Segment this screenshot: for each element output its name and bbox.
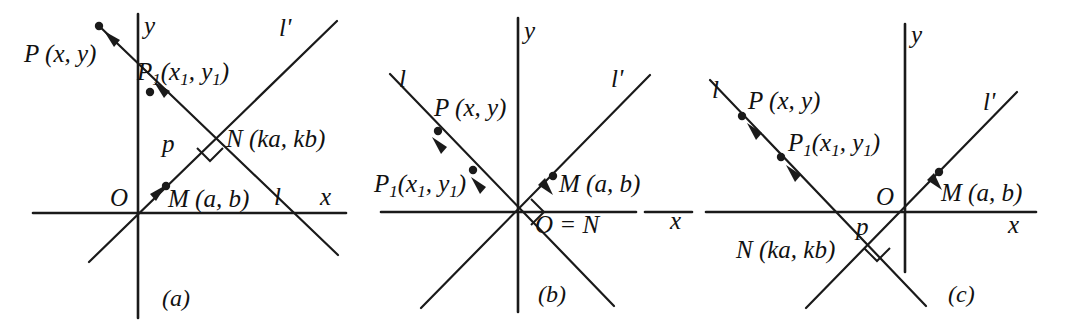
- panel-c-point-M: [935, 168, 943, 176]
- panel-a-point-P1: [146, 88, 154, 96]
- panel-a-point-P: [95, 22, 103, 30]
- panel-b-point-P: [434, 127, 442, 135]
- panel-b-label-x-axis: x: [670, 208, 681, 233]
- panel-a-label-P1-mid: , y: [189, 58, 213, 85]
- panel-b-label-P1-subscript: 1: [389, 182, 398, 201]
- panel-b-label-line-l-prime: l': [611, 66, 623, 91]
- panel-a-label-P1-open: (x: [161, 58, 180, 85]
- figure-canvas: P (x, y) P1(x1, y1) N (ka, kb) p M (a, b…: [0, 0, 1072, 332]
- panel-a-label-p-foot: p: [162, 131, 175, 156]
- panel-c-geometry: [706, 24, 1036, 308]
- panel-a-label-y-axis: y: [144, 13, 155, 38]
- panel-b-label-y-axis: y: [524, 18, 535, 43]
- panel-c-point-P1: [777, 153, 785, 161]
- panel-c-point-P: [738, 112, 746, 120]
- panel-a-label-line-l: l: [274, 184, 281, 209]
- panel-b-label-P: P (x, y): [434, 95, 506, 120]
- panel-c-label-P1-mid: , y: [840, 129, 864, 156]
- panel-a-label-P1-subscript: 1: [152, 70, 161, 89]
- panel-b-label-M: M (a, b): [559, 171, 640, 196]
- panel-c-label-line-l: l: [712, 77, 719, 102]
- panel-a-label-x-axis: x: [320, 184, 331, 209]
- panel-b-point-P1: [469, 166, 477, 174]
- panel-c-label-P1-x-subscript: 1: [831, 141, 840, 160]
- panel-c-label-P1-open: (x: [812, 129, 831, 156]
- panel-c-label-origin: O: [876, 184, 894, 209]
- panel-c-label-P1-y-subscript: 1: [863, 141, 872, 160]
- panel-b-arrow-head-lprime: [538, 178, 553, 195]
- panel-a-caption: (a): [162, 286, 190, 310]
- panel-c-label-P: P (x, y): [748, 88, 820, 113]
- panel-a-label-P1-letter: P: [137, 58, 152, 85]
- panel-c-label-P1-letter: P: [788, 129, 803, 156]
- panel-a-label-line-l-prime: l': [279, 15, 291, 40]
- panel-a-label-M: M (a, b): [168, 186, 249, 211]
- panel-a-label-P1: P1(x1, y1): [137, 59, 229, 88]
- diagram-svg: [0, 0, 1072, 332]
- panel-a-label-P1-close: ): [221, 58, 229, 85]
- panel-c-label-x-axis: x: [1008, 212, 1019, 237]
- panel-b-label-P1-open: (x: [398, 170, 417, 197]
- panel-c-label-M: M (a, b): [941, 180, 1022, 205]
- panel-a-label-P1-y-subscript: 1: [212, 70, 221, 89]
- panel-a-label-P1-x-subscript: 1: [180, 70, 189, 89]
- panel-a-label-P: P (x, y): [24, 41, 96, 66]
- panel-b-arrow-head-upper: [432, 137, 447, 154]
- panel-c-caption: (c): [948, 282, 975, 306]
- panel-b-label-origin-equals-N: O = N: [535, 212, 599, 237]
- panel-b-label-P1-close: ): [458, 170, 466, 197]
- panel-c-label-y-axis: y: [911, 22, 922, 47]
- panel-c-label-P1-close: ): [872, 129, 880, 156]
- panel-c-label-p-foot: p: [856, 214, 869, 239]
- panel-b-caption: (b): [538, 282, 566, 306]
- panel-b-geometry: [381, 18, 692, 312]
- panel-b-label-P1-x-subscript: 1: [417, 182, 426, 201]
- panel-b-arrow-head-lower: [471, 177, 486, 194]
- panel-a-label-origin: O: [110, 185, 128, 210]
- panel-c-label-P1-subscript: 1: [803, 141, 812, 160]
- panel-b-point-M: [549, 172, 557, 180]
- panel-b-label-line-l: l: [399, 66, 406, 91]
- panel-c-label-P1: P1(x1, y1): [788, 130, 880, 159]
- panel-b-label-P1: P1(x1, y1): [374, 171, 466, 200]
- panel-b-label-P1-y-subscript: 1: [449, 182, 458, 201]
- panel-c-label-line-l-prime: l': [983, 89, 995, 114]
- panel-b-label-P1-mid: , y: [426, 170, 450, 197]
- panel-a-label-N: N (ka, kb): [226, 126, 325, 151]
- panel-b-label-P1-letter: P: [374, 170, 389, 197]
- panel-c-label-N: N (ka, kb): [736, 237, 835, 262]
